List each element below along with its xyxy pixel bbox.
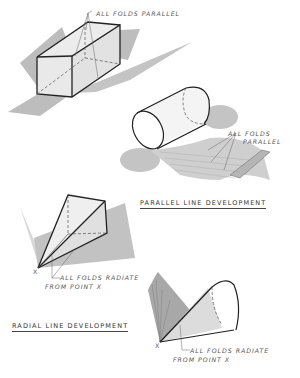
cylinder-annotation-line2: PARALLEL: [243, 138, 281, 145]
cone-point-label: X: [155, 342, 160, 349]
pyramid-annotation-line1: ALL FOLDS RADIATE: [60, 274, 139, 281]
pyramid-annotation-line2: FROM POINT X: [45, 283, 102, 290]
pyramid-illustration: [20, 193, 135, 278]
prism-annotation: ALL FOLDS PARALLEL: [96, 10, 180, 17]
radial-section-title: RADIAL LINE DEVELOPMENT: [12, 322, 128, 332]
cone-annotation-line2: FROM POINT X: [173, 356, 230, 363]
pyramid-point-label: X: [33, 268, 38, 275]
parallel-section-title: PARALLEL LINE DEVELOPMENT: [140, 199, 266, 209]
cylinder-annotation-line1: ALL FOLDS: [228, 130, 271, 137]
cone-annotation-line1: ALL FOLDS RADIATE: [190, 347, 269, 354]
cone-illustration: [148, 272, 239, 350]
